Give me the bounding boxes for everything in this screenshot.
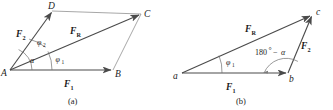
- vertex-label-C: C: [144, 9, 151, 19]
- angle-label-alpha-panel-a: α: [30, 56, 35, 65]
- force-label-FR-subscript-b: R: [252, 29, 257, 36]
- parallelogram-side-BC: [113, 14, 141, 70]
- vertex-label-A: A: [0, 68, 7, 78]
- angle-label-phi1-subscript-b: 1: [232, 62, 235, 68]
- angle-label-phi1-panel-b: φ 1: [226, 58, 235, 68]
- panel-b-group: a b c F 1 F 2 F R φ 1 180: [173, 7, 321, 106]
- force-label-F1-subscript-b: 1: [233, 87, 236, 94]
- angle-label-exterior-suffix: α: [281, 48, 286, 57]
- angle-arc-phi1-panel-b: [219, 56, 222, 73]
- force-label-F2-subscript: 2: [23, 34, 26, 41]
- angle-label-phi2-symbol: φ: [37, 38, 42, 47]
- angle-label-exterior-minus: −: [273, 48, 278, 57]
- force-label-F1-subscript: 1: [71, 84, 74, 91]
- force-label-FR-panel-b: F R: [244, 24, 257, 36]
- angle-label-phi1-subscript: 1: [62, 59, 65, 65]
- force-label-F1-panel-a: F 1: [63, 79, 74, 91]
- force-label-F2-panel-a: F 2: [15, 29, 26, 41]
- degree-icon: °: [269, 46, 272, 55]
- angle-label-phi2-panel-a: φ 2: [37, 38, 46, 48]
- force-label-FR-subscript: R: [77, 31, 82, 38]
- panel-a-caption: (a): [68, 96, 78, 106]
- angle-label-phi2-subscript: 2: [43, 42, 46, 48]
- vertex-label-b: b: [289, 74, 294, 84]
- angle-label-phi1-symbol: φ: [56, 55, 61, 64]
- parallelogram-side-DC: [52, 11, 141, 14]
- angle-label-exterior-prefix: 180: [255, 48, 267, 57]
- vertex-label-a: a: [173, 71, 178, 81]
- vertex-label-c: c: [316, 7, 321, 17]
- force-label-F2-subscript-b: 2: [308, 46, 311, 53]
- vertex-label-B: B: [115, 69, 121, 79]
- panel-b-caption: (b): [236, 96, 246, 106]
- figure-canvas: A B C D F 1 F 2 F R α φ 1: [0, 0, 333, 110]
- angle-arc-phi1-panel-a: [48, 51, 52, 70]
- force-label-F2-panel-b: F 2: [300, 41, 311, 53]
- vertex-label-D: D: [47, 1, 55, 11]
- angle-label-phi1-panel-a: φ 1: [56, 55, 65, 65]
- panel-a-group: A B C D F 1 F 2 F R α φ 1: [0, 1, 151, 106]
- force-label-FR-panel-a: F R: [69, 26, 82, 38]
- angle-label-exterior-panel-b: 180 ° − α: [255, 46, 286, 58]
- force-label-F1-panel-b: F 1: [225, 82, 236, 94]
- angle-label-phi1-symbol-b: φ: [226, 58, 231, 67]
- force-diagram-figure: A B C D F 1 F 2 F R α φ 1: [0, 0, 333, 110]
- angle-label-alpha-symbol: α: [30, 56, 35, 65]
